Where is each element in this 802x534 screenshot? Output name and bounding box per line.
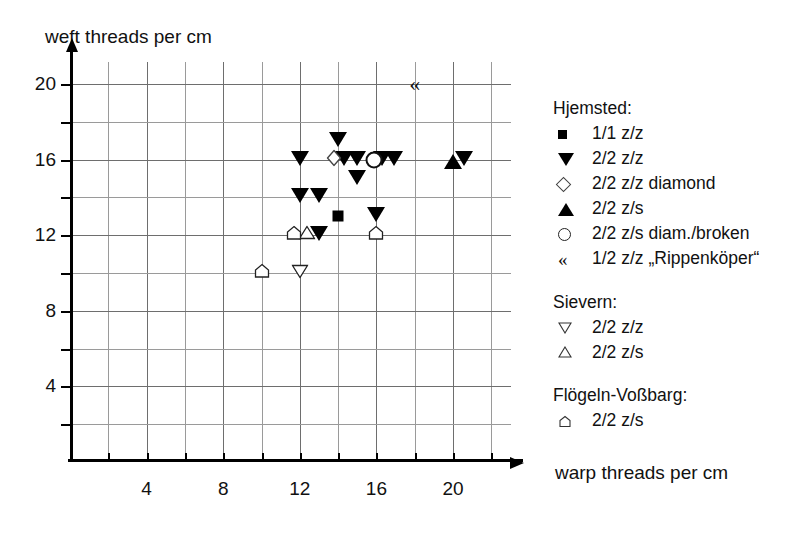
y-tick-label: 12 <box>18 224 56 246</box>
legend-symbol-open-house-icon <box>553 409 592 434</box>
y-axis-tick <box>61 197 70 199</box>
legend-item[interactable]: 2/2 z/z diamond <box>553 172 802 197</box>
legend-symbol-open-diamond-icon <box>553 172 592 197</box>
gridline-horizontal <box>70 424 511 425</box>
gridline-horizontal <box>70 349 511 350</box>
y-axis-tick <box>61 122 70 124</box>
legend-item-label: 2/2 z/s diam./broken <box>592 225 750 243</box>
marker-filled-triangle-down-icon <box>348 173 366 185</box>
x-tick-label: 4 <box>141 478 152 500</box>
legend-item-label: 2/2 z/z <box>592 319 644 337</box>
marker-filled-triangle-down-icon <box>348 154 366 166</box>
marker-filled-triangle-down-icon <box>291 191 309 203</box>
marker-filled-triangle-down-icon <box>291 154 309 166</box>
y-tick-label: 16 <box>18 149 56 171</box>
legend-item[interactable]: 2/2 z/s <box>553 340 802 365</box>
marker-open-circle-icon <box>366 151 383 168</box>
y-axis-tick <box>61 311 70 313</box>
marker-open-house-icon <box>254 264 270 283</box>
y-axis-tick <box>61 386 70 388</box>
y-tick-label: 20 <box>18 73 56 95</box>
y-axis-tick <box>61 424 70 426</box>
legend-symbol-filled-triangle-down-icon <box>553 147 592 172</box>
gridline-horizontal <box>70 84 511 85</box>
y-axis-line <box>70 50 73 462</box>
marker-guillemet-icon: « <box>409 73 420 95</box>
legend-symbol-open-circle-icon <box>553 222 592 247</box>
y-axis-tick <box>61 273 70 275</box>
x-tick-label: 16 <box>366 478 387 500</box>
marker-filled-triangle-up-icon <box>444 151 462 169</box>
legend-symbol-open-triangle-down-icon <box>553 315 592 340</box>
y-axis-tick <box>61 84 70 86</box>
legend-item[interactable]: «1/2 z/z „Rippenköper“ <box>553 247 802 272</box>
gridline-horizontal <box>70 311 511 312</box>
legend-item[interactable]: 1/1 z/z <box>553 122 802 147</box>
gridline-horizontal <box>70 386 511 387</box>
legend-item[interactable]: 2/2 z/z <box>553 315 802 340</box>
marker-filled-triangle-down-icon <box>310 191 328 203</box>
marker-filled-triangle-down-icon <box>367 210 385 222</box>
legend-symbol-guillemet-icon: « <box>553 247 592 272</box>
legend-group: Sievern:2/2 z/z2/2 z/s <box>553 294 802 366</box>
legend-item-label: 2/2 z/s <box>592 344 644 362</box>
legend-symbol-filled-triangle-up-icon <box>553 197 592 222</box>
legend-symbol-filled-square-icon <box>553 122 592 147</box>
legend-item[interactable]: 2/2 z/s <box>553 409 802 434</box>
y-axis-tick <box>61 349 70 351</box>
marker-open-house-icon <box>368 226 384 245</box>
legend-group: Hjemsted:1/1 z/z2/2 z/z2/2 z/z diamond2/… <box>553 100 802 272</box>
x-axis-title: warp threads per cm <box>555 462 728 484</box>
scatter-plot-figure: weft threads per cm warp threads per cm … <box>0 0 802 534</box>
legend-symbol-open-triangle-up-icon <box>553 340 592 365</box>
marker-filled-triangle-down-icon <box>329 135 347 147</box>
marker-open-triangle-down-icon <box>291 264 308 283</box>
y-axis-arrow-icon <box>66 38 78 52</box>
legend-item-label: 1/1 z/z <box>592 125 644 143</box>
legend-item-label: 2/2 z/s <box>592 412 644 430</box>
marker-open-diamond-icon <box>327 149 342 170</box>
legend-item-label: 1/2 z/z „Rippenköper“ <box>592 250 759 268</box>
legend-item-label: 2/2 z/s <box>592 200 644 218</box>
legend-group-title: Sievern: <box>553 294 802 312</box>
plot-area: « <box>70 62 511 462</box>
marker-filled-triangle-down-icon <box>385 154 403 166</box>
legend-group: Flögeln-Voßbarg:2/2 z/s <box>553 387 802 434</box>
y-tick-label: 8 <box>18 300 56 322</box>
y-tick-label: 4 <box>18 375 56 397</box>
legend-item-label: 2/2 z/z <box>592 150 644 168</box>
gridline-horizontal <box>70 122 511 123</box>
x-axis-line <box>68 459 523 462</box>
y-axis-tick <box>61 160 70 162</box>
x-tick-label: 8 <box>218 478 229 500</box>
legend: Hjemsted:1/1 z/z2/2 z/z2/2 z/z diamond2/… <box>553 100 802 438</box>
legend-group-title: Flögeln-Voßbarg: <box>553 387 802 405</box>
marker-filled-square-icon <box>333 211 344 222</box>
legend-group-title: Hjemsted: <box>553 100 802 118</box>
y-axis-tick <box>61 235 70 237</box>
legend-item[interactable]: 2/2 z/s diam./broken <box>553 222 802 247</box>
x-tick-label: 12 <box>289 478 310 500</box>
x-axis-arrow-icon <box>510 457 524 469</box>
legend-item[interactable]: 2/2 z/z <box>553 147 802 172</box>
legend-spacer <box>553 276 802 294</box>
legend-item[interactable]: 2/2 z/s <box>553 197 802 222</box>
x-tick-label: 20 <box>442 478 463 500</box>
marker-open-house-icon <box>286 226 302 245</box>
legend-item-label: 2/2 z/z diamond <box>592 175 716 193</box>
